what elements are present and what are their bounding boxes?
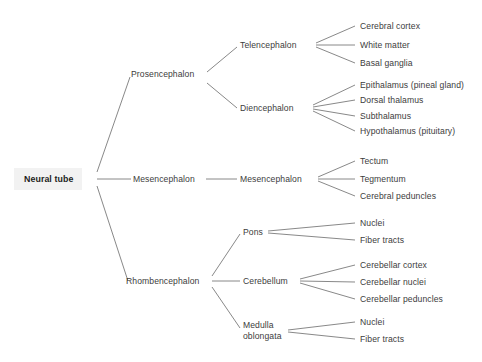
leaf-basal-ganglia[interactable]: Basal ganglia <box>360 58 413 69</box>
leaf-hypothalamus[interactable]: Hypothalamus (pituitary) <box>360 126 455 137</box>
leaf-cerebral-peduncles[interactable]: Cerebral peduncles <box>360 191 436 202</box>
node-telencephalon[interactable]: Telencephalon <box>240 40 297 51</box>
edge-mesencephalon-to-tectum <box>318 161 355 177</box>
leaf-tectum[interactable]: Tectum <box>360 156 388 167</box>
leaf-pons-fiber-tracts[interactable]: Fiber tracts <box>360 235 404 246</box>
leaf-cerebellar-peduncles[interactable]: Cerebellar peduncles <box>360 294 443 305</box>
leaf-dorsal-thalamus[interactable]: Dorsal thalamus <box>360 95 423 106</box>
edge-cerebellum-to-cerebellar-cortex <box>300 265 355 279</box>
leaf-white-matter[interactable]: White matter <box>360 40 410 51</box>
edge-diencephalon-to-dorsal-thalamus <box>313 100 355 107</box>
leaf-medulla-fiber-tracts[interactable]: Fiber tracts <box>360 334 404 345</box>
node-cerebellum[interactable]: Cerebellum <box>243 276 288 287</box>
edge-root-to-rhombencephalon <box>97 186 128 281</box>
edge-mesencephalon-to-cerebral-peduncles <box>318 181 355 196</box>
leaf-subthalamus[interactable]: Subthalamus <box>360 111 411 122</box>
edge-root-to-prosencephalon <box>97 77 130 172</box>
leaf-pons-nuclei[interactable]: Nuclei <box>360 218 384 229</box>
node-mesencephalon-level3[interactable]: Mesencephalon <box>240 174 302 185</box>
leaf-epithalamus[interactable]: Epithalamus (pineal gland) <box>360 80 464 91</box>
node-prosencephalon[interactable]: Prosencephalon <box>131 69 194 80</box>
node-diencephalon[interactable]: Diencephalon <box>240 103 294 114</box>
neural-tube-tree-diagram: Neural tube Prosencephalon Mesencephalon… <box>0 0 482 362</box>
node-mesencephalon-level2[interactable]: Mesencephalon <box>133 174 195 185</box>
edge-rhombencephalon-to-medulla <box>212 287 240 328</box>
edge-rhombencephalon-to-pons <box>212 234 240 276</box>
edge-pons-to-nuclei <box>268 223 355 231</box>
edge-prosencephalon-to-telencephalon <box>207 47 237 72</box>
leaf-medulla-nuclei[interactable]: Nuclei <box>360 317 384 328</box>
root-node-neural-tube[interactable]: Neural tube <box>14 168 82 190</box>
leaf-tegmentum[interactable]: Tegmentum <box>360 174 406 185</box>
node-rhombencephalon[interactable]: Rhombencephalon <box>126 276 199 287</box>
edge-cerebellum-to-cerebellar-peduncles <box>300 283 355 299</box>
edge-telencephalon-to-cerebral-cortex <box>316 26 355 43</box>
leaf-cerebellar-cortex[interactable]: Cerebellar cortex <box>360 260 427 271</box>
edge-cerebellum-to-cerebellar-nuclei <box>300 281 355 282</box>
edge-pons-to-fiber-tracts <box>268 233 355 240</box>
leaf-cerebellar-nuclei[interactable]: Cerebellar nuclei <box>360 277 426 288</box>
node-medulla-oblongata[interactable]: Medulla oblongata <box>243 320 301 342</box>
edge-diencephalon-to-subthalamus <box>313 109 355 116</box>
edge-diencephalon-to-epithalamus <box>313 85 355 105</box>
node-pons[interactable]: Pons <box>243 227 263 238</box>
edge-diencephalon-to-hypothalamus <box>313 111 355 131</box>
edge-prosencephalon-to-diencephalon <box>207 83 237 108</box>
leaf-cerebral-cortex[interactable]: Cerebral cortex <box>360 21 420 32</box>
edge-telencephalon-to-basal-ganglia <box>316 47 355 63</box>
